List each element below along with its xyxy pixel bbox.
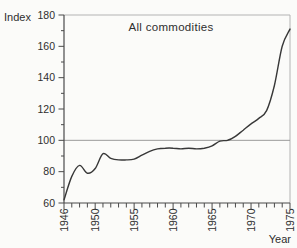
- plot-frame-group: [64, 15, 290, 203]
- y-tick-label: 140: [37, 71, 55, 83]
- chart-title: All commodities: [128, 21, 213, 33]
- price-index-chart-figure: 6080100120140160180194619501955196019651…: [0, 0, 297, 248]
- y-tick-label: 180: [37, 9, 55, 21]
- x-tick-label: 1946: [58, 208, 70, 232]
- y-tick-label: 60: [43, 197, 55, 209]
- x-tick-label: 1965: [206, 208, 218, 232]
- tick-marks-group: [59, 15, 291, 210]
- x-tick-label: 1950: [89, 208, 101, 232]
- y-tick-label: 100: [37, 134, 55, 146]
- y-axis-title: Index: [4, 11, 31, 23]
- all-commodities-line: [64, 29, 290, 200]
- chart-plot: 6080100120140160180194619501955196019651…: [0, 0, 297, 248]
- x-tick-label: 1955: [128, 208, 140, 232]
- y-tick-label: 120: [37, 103, 55, 115]
- x-tick-label: 1960: [167, 208, 179, 232]
- x-tick-label: 1975: [284, 208, 296, 232]
- y-tick-label: 160: [37, 40, 55, 52]
- x-tick-label: 1970: [245, 208, 257, 232]
- y-tick-label: 80: [43, 165, 55, 177]
- x-axis-title: Year: [269, 233, 292, 245]
- data-series-group: [64, 29, 290, 200]
